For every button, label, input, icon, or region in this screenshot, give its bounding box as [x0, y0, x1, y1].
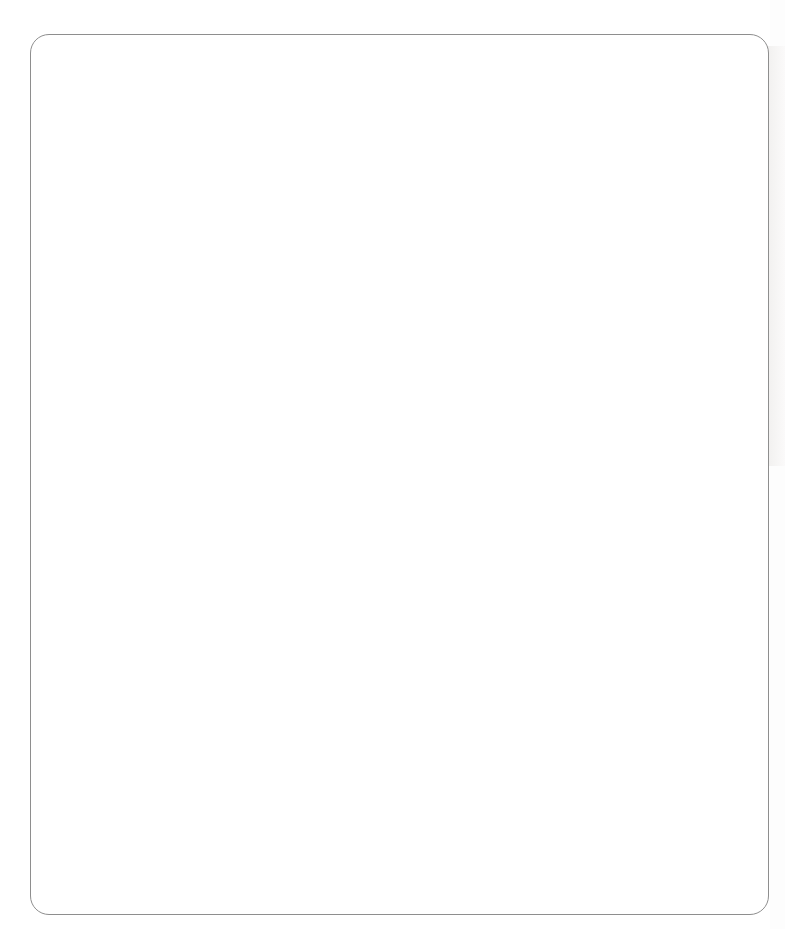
figure-card	[30, 34, 769, 915]
